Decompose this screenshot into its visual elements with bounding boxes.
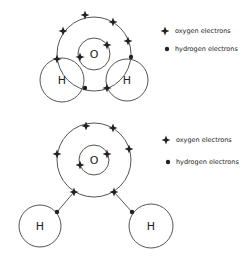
oxygen-electron-icon bbox=[103, 150, 112, 159]
oxygen-electron-icon bbox=[161, 27, 170, 36]
hydrogen-label: H bbox=[58, 74, 66, 87]
oxygen-electron-icon bbox=[81, 11, 90, 20]
oxygen-electron-icon bbox=[109, 18, 118, 27]
hydrogen-electron-icon bbox=[165, 47, 169, 51]
overlapping-diagram: OHH bbox=[40, 11, 148, 103]
water-molecule-diagrams: OHH OHH bbox=[0, 0, 246, 266]
bond-line bbox=[114, 192, 132, 212]
legend-hydrogen-label: hydrogen electrons bbox=[176, 159, 239, 166]
oxygen-electron-icon bbox=[53, 150, 62, 159]
oxygen-electron-icon bbox=[53, 55, 62, 64]
legend-hydrogen-label: hydrogen electrons bbox=[175, 46, 238, 53]
oxygen-electron-icon bbox=[76, 53, 85, 62]
bond-line bbox=[57, 192, 74, 212]
hydrogen-electron-icon bbox=[83, 86, 87, 90]
oxygen-electron-icon bbox=[124, 37, 133, 46]
hydrogen-electron-icon bbox=[55, 210, 59, 214]
oxygen-label: O bbox=[90, 154, 99, 167]
hydrogen-label: H bbox=[36, 220, 44, 233]
hydrogen-label: H bbox=[123, 74, 131, 87]
legend-oxygen-label: oxygen electrons bbox=[175, 28, 231, 35]
legend-oxygen-label: oxygen electrons bbox=[176, 137, 232, 144]
oxygen-electron-icon bbox=[103, 84, 112, 93]
separated-diagram: OHH bbox=[19, 122, 173, 249]
hydrogen-electron-icon bbox=[166, 160, 170, 164]
legend-icons bbox=[161, 27, 171, 165]
oxygen-electron-icon bbox=[59, 27, 68, 36]
oxygen-electron-icon bbox=[76, 161, 85, 170]
hydrogen-electron-icon bbox=[130, 210, 134, 214]
oxygen-electron-icon bbox=[125, 145, 134, 154]
oxygen-electron-icon bbox=[109, 124, 118, 133]
oxygen-electron-icon bbox=[162, 136, 171, 145]
hydrogen-label: H bbox=[147, 220, 155, 233]
oxygen-label: O bbox=[90, 48, 99, 61]
hydrogen-electron-icon bbox=[129, 55, 133, 59]
